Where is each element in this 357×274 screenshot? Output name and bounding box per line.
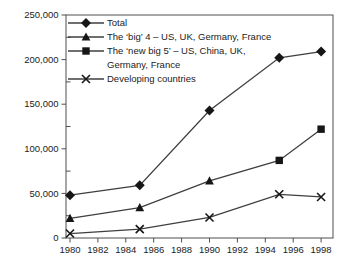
x-axis-tick-label: 1988 (171, 244, 192, 255)
x-axis-tick-label: 1986 (143, 244, 164, 255)
y-axis-tick-label: 250,000 (24, 9, 58, 20)
legend-triangle-marker-icon (68, 31, 104, 43)
legend-label: The ‘big’ 4 – US, UK, Germany, France (107, 30, 271, 44)
x-axis-tick-label: 1990 (199, 244, 220, 255)
legend-diamond-glyph-icon (81, 18, 91, 28)
legend-square-marker-icon (68, 45, 104, 57)
x-axis-tick-label: 1984 (115, 244, 136, 255)
legend-x-marker-icon (68, 73, 104, 85)
diamond-marker-icon (274, 53, 284, 63)
legend-marker-cell (68, 72, 104, 86)
x-axis-tick-label: 1982 (87, 244, 108, 255)
legend-row: The ‘new big 5’ – US, China, UK, (68, 44, 271, 58)
series-line-square (210, 129, 322, 181)
x-axis-tick-label: 1996 (283, 244, 304, 255)
chart-legend: TotalThe ‘big’ 4 – US, UK, Germany, Fran… (68, 16, 271, 86)
legend-diamond-marker-icon (68, 17, 104, 29)
y-axis-tick-label: 200,000 (24, 54, 58, 65)
legend-row-continuation: Germany, France (68, 58, 271, 72)
legend-label: Germany, France (107, 58, 180, 72)
legend-label: The ‘new big 5’ – US, China, UK, (107, 44, 246, 58)
legend-marker-cell (68, 30, 104, 44)
legend-marker-cell (68, 16, 104, 30)
legend-marker-cell (68, 44, 104, 58)
square-marker-icon (276, 157, 283, 164)
legend-marker-cell (68, 58, 104, 72)
y-axis-tick-label: 150,000 (24, 98, 58, 109)
legend-row: The ‘big’ 4 – US, UK, Germany, France (68, 30, 271, 44)
series-line-x (70, 194, 321, 233)
x-axis-tick-label: 1992 (227, 244, 248, 255)
y-axis-tick-label: 50,000 (29, 188, 58, 199)
x-axis-tick-label: 1998 (311, 244, 332, 255)
diamond-marker-icon (316, 47, 326, 57)
x-axis-tick-label: 1994 (255, 244, 276, 255)
square-marker-icon (317, 125, 324, 132)
legend-label: Developing countries (107, 72, 196, 86)
legend-square-glyph-icon (82, 47, 89, 54)
x-axis-tick-label: 1980 (59, 244, 80, 255)
y-axis-tick-label: 100,000 (24, 143, 58, 154)
chart-figure: 050,000100,000150,000200,000250,00019801… (0, 0, 357, 274)
legend-label: Total (107, 16, 127, 30)
legend-row: Developing countries (68, 72, 271, 86)
y-axis-tick-label: 0 (53, 232, 58, 243)
legend-row: Total (68, 16, 271, 30)
